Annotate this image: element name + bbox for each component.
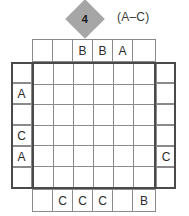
play-cell[interactable] [74,146,94,167]
play-cell[interactable] [34,105,54,126]
clue-left-4[interactable]: C [11,125,32,146]
play-cell[interactable] [54,64,74,85]
play-cell[interactable] [134,64,154,85]
play-cell[interactable] [34,85,54,106]
clue-right-5[interactable]: C [156,146,176,167]
clue-bottom-4[interactable]: C [92,189,113,212]
play-cell[interactable] [34,167,54,188]
play-cell[interactable] [114,167,134,188]
play-cell[interactable] [134,146,154,167]
play-cell[interactable] [114,146,134,167]
clue-top-3[interactable]: B [72,39,93,62]
play-cell[interactable] [94,64,114,85]
clue-left-5[interactable]: A [11,146,32,167]
play-cell[interactable] [74,64,94,85]
clue-bottom-1[interactable] [32,189,53,212]
diamond-marker: 4 [65,0,105,39]
clue-left-6[interactable] [11,167,32,189]
clue-right-6[interactable] [156,167,176,189]
clue-top-5[interactable]: A [112,39,133,62]
clue-top-6[interactable] [132,39,156,62]
play-cell[interactable] [114,126,134,147]
play-cell[interactable] [34,64,54,85]
letter-range-label: (A–C) [117,10,149,24]
clue-bottom-5[interactable] [112,189,133,212]
play-cell[interactable] [34,146,54,167]
play-cell[interactable] [94,167,114,188]
clue-right-3[interactable] [156,104,176,125]
clue-right-4[interactable] [156,125,176,146]
play-cell[interactable] [94,146,114,167]
play-cell[interactable] [134,126,154,147]
play-cell[interactable] [74,167,94,188]
play-cell[interactable] [114,85,134,106]
play-cell[interactable] [94,105,114,126]
play-cell[interactable] [54,105,74,126]
clue-left-3[interactable] [11,104,32,125]
play-cell[interactable] [134,85,154,106]
play-cell[interactable] [114,105,134,126]
clue-right-1[interactable] [156,62,176,83]
clue-bottom-6[interactable]: B [132,189,156,212]
play-grid [32,62,156,189]
clue-top-2[interactable] [52,39,73,62]
play-cell[interactable] [74,85,94,106]
play-cell[interactable] [134,105,154,126]
play-cell[interactable] [54,167,74,188]
play-cell[interactable] [134,167,154,188]
play-cell[interactable] [54,126,74,147]
clue-left-2[interactable]: A [11,83,32,104]
play-cell[interactable] [74,105,94,126]
play-cell[interactable] [54,85,74,106]
play-cell[interactable] [94,85,114,106]
play-cell[interactable] [54,146,74,167]
clue-top-1[interactable] [32,39,53,62]
clue-left-1[interactable] [11,62,32,83]
puzzle-container: 4 (A–C) B B A A C A C C C C B [0,0,189,216]
clue-top-4[interactable]: B [92,39,113,62]
play-cell[interactable] [114,64,134,85]
diamond-marker-value: 4 [82,14,88,25]
clue-right-2[interactable] [156,83,176,104]
play-cell[interactable] [34,126,54,147]
play-cell[interactable] [74,126,94,147]
clue-bottom-2[interactable]: C [52,189,73,212]
play-cell[interactable] [94,126,114,147]
clue-bottom-3[interactable]: C [72,189,93,212]
